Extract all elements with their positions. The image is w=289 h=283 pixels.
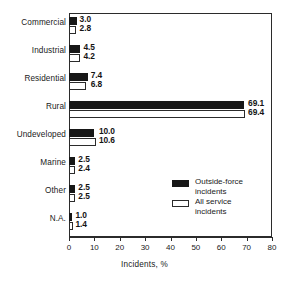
bar-all-service [69, 82, 86, 90]
bar-group-row: Commercial3.02.8 [0, 13, 289, 41]
x-tick-label: 30 [141, 243, 150, 252]
bar-chart: Commercial3.02.8Industrial4.54.2Resident… [0, 0, 289, 283]
bar-pair: 3.02.8 [69, 16, 272, 38]
bar-outside-force [69, 17, 77, 25]
bar-group-row: Residential7.46.8 [0, 69, 289, 97]
category-label-rural: Rural [46, 102, 66, 111]
value-label-all-service: 2.5 [78, 191, 89, 201]
x-tick-label: 60 [217, 243, 226, 252]
bar-outside-force [69, 101, 244, 109]
category-label-commercial: Commercial [21, 18, 66, 27]
value-label-all-service: 1.4 [76, 219, 87, 229]
bar-all-service [69, 110, 245, 118]
bar-outside-force [69, 129, 94, 137]
bar-outside-force [69, 157, 75, 165]
bar-group-row: Undeveloped10.010.6 [0, 125, 289, 153]
value-label-all-service: 69.4 [248, 107, 264, 117]
x-tick-label: 20 [115, 243, 124, 252]
legend-item-outside-force: Outside-force incidents [172, 178, 270, 196]
x-tick [94, 237, 95, 241]
x-tick-label: 10 [90, 243, 99, 252]
bar-outside-force [69, 73, 88, 81]
bar-group-row: Industrial4.54.2 [0, 41, 289, 69]
bar-all-service [69, 222, 73, 230]
bar-outside-force [69, 185, 75, 193]
bar-outside-force [69, 213, 72, 221]
bar-outside-force [69, 45, 80, 53]
x-tick [120, 237, 121, 241]
bar-pair: 69.169.4 [69, 100, 272, 122]
x-tick [221, 237, 222, 241]
bar-group-row: Marine2.52.4 [0, 153, 289, 181]
bar-pair: 4.54.2 [69, 44, 272, 66]
bar-all-service [69, 194, 75, 202]
x-tick [272, 237, 273, 241]
x-tick [196, 237, 197, 241]
x-tick-label: 80 [268, 243, 277, 252]
value-label-all-service: 4.2 [83, 51, 94, 61]
value-label-all-service: 10.6 [99, 135, 115, 145]
category-label-marine: Marine [40, 158, 66, 167]
bar-all-service [69, 54, 80, 62]
category-label-other: Other [45, 186, 66, 195]
bar-pair: 7.46.8 [69, 72, 272, 94]
bar-pair: 2.52.4 [69, 156, 272, 178]
value-label-all-service: 6.8 [91, 79, 102, 89]
category-label-residential: Residential [24, 74, 66, 83]
x-tick-label: 40 [166, 243, 175, 252]
x-axis-label: Incidents, % [0, 260, 289, 269]
bar-all-service [69, 166, 75, 174]
x-tick-label: 50 [191, 243, 200, 252]
x-tick [69, 237, 70, 241]
bar-all-service [69, 138, 96, 146]
legend-swatch-open-white-icon [172, 200, 189, 207]
legend-item-all-service: All service incidents [172, 198, 270, 216]
x-tick [247, 237, 248, 241]
x-tick [145, 237, 146, 241]
category-label-undeveloped: Undeveloped [17, 130, 66, 139]
chart-legend: Outside-force incidents All service inci… [172, 178, 270, 218]
x-tick-label: 0 [67, 243, 71, 252]
bar-pair: 10.010.6 [69, 128, 272, 150]
value-label-all-service: 2.8 [80, 23, 91, 33]
legend-swatch-filled-black-icon [172, 180, 189, 187]
x-tick-label: 70 [242, 243, 251, 252]
legend-label-outside-force: Outside-force incidents [195, 177, 243, 196]
x-tick [171, 237, 172, 241]
legend-label-all-service: All service incidents [195, 197, 231, 216]
bar-group-row: Rural69.169.4 [0, 97, 289, 125]
value-label-all-service: 2.4 [78, 163, 89, 173]
bar-all-service [69, 26, 76, 34]
category-label-n-a: N.A. [50, 214, 66, 223]
category-label-industrial: Industrial [32, 46, 66, 55]
